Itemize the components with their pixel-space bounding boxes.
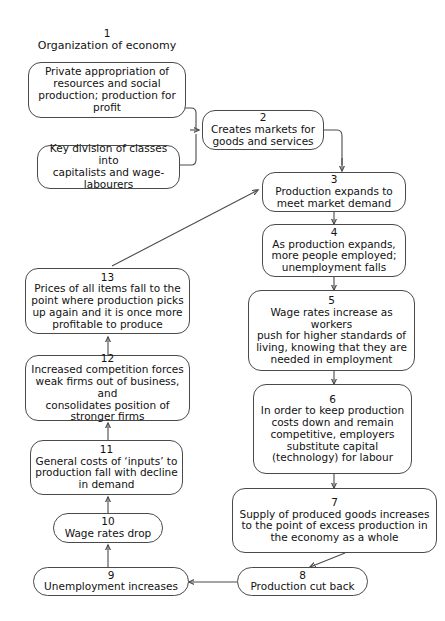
- node-text: General costs of ‘inputs’ to production …: [31, 456, 181, 491]
- node-4-more-people-employed[interactable]: 4 As production expands, more people emp…: [262, 224, 406, 277]
- node-text: Unemployment increases: [40, 581, 182, 593]
- node-2-creates-markets[interactable]: 2 Creates markets for goods and services: [202, 110, 324, 150]
- node-3-production-expands[interactable]: 3 Production expands to meet market dema…: [262, 172, 406, 212]
- connector-1b-to-2: [180, 134, 196, 165]
- node-text: Supply of produced goods increases to th…: [235, 509, 433, 544]
- node-text: Production cut back: [246, 581, 358, 593]
- node-text: Increased competition forces weak firms …: [26, 364, 189, 423]
- node-10-wage-rates-drop[interactable]: 10 Wage rates drop: [53, 513, 163, 543]
- connector-13-to-3: [112, 190, 258, 266]
- diagram-title: 1 Organization of economy: [28, 27, 186, 52]
- connector-2-to-3: [324, 130, 342, 165]
- node-text: As production expands, more people emplo…: [267, 239, 400, 274]
- node-12-increased-competition[interactable]: 12 Increased competition forces weak fir…: [25, 355, 190, 421]
- diagram-title-text: Organization of economy: [28, 39, 186, 52]
- diagram-title-number: 1: [28, 27, 186, 39]
- node-number: 7: [331, 497, 338, 509]
- flowchart-canvas: 1 Organization of economy Private approp…: [0, 0, 445, 621]
- node-text: Production expands to meet market demand: [271, 186, 396, 210]
- node-key-division-of-classes[interactable]: Key division of classes into capitalists…: [37, 145, 180, 189]
- node-7-excess-production[interactable]: 7 Supply of produced goods increases to …: [232, 488, 437, 553]
- node-9-unemployment-increases[interactable]: 9 Unemployment increases: [33, 567, 189, 596]
- node-text: Key division of classes into capitalists…: [38, 143, 179, 190]
- node-text: Wage rates increase as workers push for …: [249, 307, 414, 366]
- node-8-production-cut-back[interactable]: 8 Production cut back: [237, 567, 368, 596]
- node-11-general-costs-fall[interactable]: 11 General costs of ‘inputs’ to producti…: [30, 440, 183, 495]
- connector-7-to-8: [310, 553, 345, 567]
- node-number: 11: [100, 444, 113, 456]
- node-6-substitute-capital[interactable]: 6 In order to keep production costs down…: [253, 384, 412, 474]
- node-private-appropriation[interactable]: Private appropriation of resources and s…: [28, 62, 186, 118]
- node-number: 4: [331, 227, 338, 239]
- node-text: Prices of all items fall to the point wh…: [27, 283, 187, 330]
- node-text: Private appropriation of resources and s…: [34, 66, 179, 113]
- node-text: Creates markets for goods and services: [207, 124, 319, 148]
- node-13-prices-fall[interactable]: 13 Prices of all items fall to the point…: [25, 268, 190, 334]
- node-text: In order to keep production costs down a…: [257, 405, 408, 464]
- node-text: Wage rates drop: [61, 528, 156, 540]
- node-5-wage-rates-increase[interactable]: 5 Wage rates increase as workers push fo…: [248, 290, 415, 371]
